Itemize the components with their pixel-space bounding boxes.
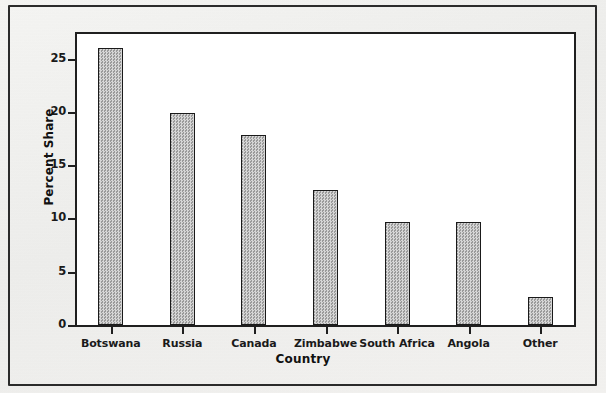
bar-canada (241, 135, 266, 325)
y-axis-title: Percent Share (42, 97, 56, 217)
x-tick-label-zimbabwe: Zimbabwe (294, 337, 357, 350)
x-tick-label-botswana: Botswana (81, 337, 141, 350)
y-tick-25 (68, 59, 77, 61)
bar-other (528, 297, 553, 325)
bar-series (75, 32, 576, 327)
x-tick-botswana (111, 327, 113, 334)
y-tick-0 (68, 325, 77, 327)
bar-botswana (98, 48, 123, 325)
x-tick-other (540, 327, 542, 334)
x-tick-russia (182, 327, 184, 334)
x-axis-title: Country (0, 352, 606, 366)
bar-angola (456, 222, 481, 325)
x-tick-label-russia: Russia (162, 337, 202, 350)
x-tick-label-other: Other (523, 337, 558, 350)
bar-russia (170, 113, 195, 325)
y-tick-5 (68, 272, 77, 274)
x-tick-label-south-africa: South Africa (359, 337, 434, 350)
y-axis-title-container: Percent Share (22, 0, 42, 393)
x-tick-canada (254, 327, 256, 334)
x-tick-angola (469, 327, 471, 334)
y-tick-10 (68, 218, 77, 220)
x-tick-zimbabwe (326, 327, 328, 334)
x-tick-label-canada: Canada (231, 337, 276, 350)
x-tick-label-angola: Angola (447, 337, 489, 350)
bar-zimbabwe (313, 190, 338, 325)
bar-south-africa (385, 222, 410, 325)
y-tick-15 (68, 165, 77, 167)
x-tick-south-africa (397, 327, 399, 334)
y-tick-20 (68, 112, 77, 114)
